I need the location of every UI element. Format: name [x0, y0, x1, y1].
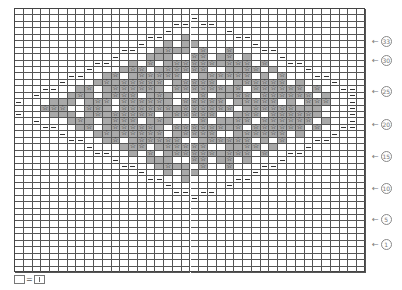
purl-dash-icon [280, 160, 285, 161]
arrow-left-icon: ← [372, 87, 379, 96]
chart-cell [68, 267, 77, 273]
purl-dash-icon [104, 63, 109, 64]
purl-dash-icon [262, 50, 267, 51]
purl-dash-icon [104, 153, 109, 154]
row-number: 20 [381, 119, 392, 130]
purl-dash-icon [350, 114, 355, 115]
chart-cell [76, 267, 85, 273]
chart-cell [112, 267, 121, 273]
chart-cell [164, 267, 173, 273]
chart-cell [269, 267, 278, 273]
purl-dash-icon [148, 179, 153, 180]
purl-dash-icon [183, 192, 188, 193]
row-label: ←25 [372, 86, 392, 97]
chart-cell [191, 267, 200, 273]
row-number: 10 [381, 183, 392, 194]
purl-dash-icon [209, 192, 214, 193]
purl-dash-icon [34, 95, 39, 96]
purl-dash-icon [332, 82, 337, 83]
chart-cell [331, 267, 340, 273]
purl-dash-icon [253, 44, 258, 45]
chart-cell [226, 267, 235, 273]
purl-dash-icon [271, 166, 276, 167]
arrow-left-icon: ← [372, 120, 379, 129]
purl-dash-icon [51, 127, 56, 128]
row-label: ←1 [372, 239, 392, 250]
purl-dash-icon [350, 127, 355, 128]
row-label: ←30 [372, 55, 392, 66]
chart-cell [120, 267, 129, 273]
purl-dash-icon [227, 31, 232, 32]
purl-dash-icon [95, 153, 100, 154]
purl-dash-icon [87, 147, 92, 148]
knit-symbol-icon [34, 275, 45, 284]
arrow-left-icon: ← [372, 152, 379, 161]
chart-cell [155, 267, 164, 273]
purl-dash-icon [16, 114, 21, 115]
row-number: 1 [381, 239, 392, 250]
chart-cell [313, 267, 322, 273]
chart-cell [322, 267, 331, 273]
chart-cell [94, 267, 103, 273]
purl-dash-icon [60, 134, 65, 135]
row-number: 15 [381, 151, 392, 162]
purl-dash-icon [271, 50, 276, 51]
purl-dash-icon [332, 134, 337, 135]
purl-dash-icon [341, 89, 346, 90]
chart-cell [208, 267, 217, 273]
purl-dash-icon [139, 44, 144, 45]
purl-dash-icon [166, 31, 171, 32]
chart-cell [85, 267, 94, 273]
purl-dash-icon [16, 102, 21, 103]
row-label: ←15 [372, 151, 392, 162]
chart-cell [252, 267, 261, 273]
purl-dash-icon [288, 63, 293, 64]
chart-cell [296, 267, 305, 273]
arrow-left-icon: ← [372, 240, 379, 249]
purl-dash-icon [288, 153, 293, 154]
chart-cell [261, 267, 270, 273]
purl-dash-icon [78, 140, 83, 141]
purl-dash-icon [174, 192, 179, 193]
arrow-left-icon: ← [372, 215, 379, 224]
purl-dash-icon [130, 50, 135, 51]
purl-dash-icon [201, 192, 206, 193]
chart-cell [41, 267, 50, 273]
purl-dash-icon [183, 24, 188, 25]
purl-dash-icon [157, 37, 162, 38]
purl-dash-icon [324, 140, 329, 141]
chart-cell [287, 267, 296, 273]
legend: = [14, 275, 45, 284]
row-label: ←10 [372, 183, 392, 194]
purl-dash-icon [60, 82, 65, 83]
purl-dash-icon [236, 179, 241, 180]
purl-dash-icon [236, 37, 241, 38]
purl-dash-icon [201, 24, 206, 25]
purl-dash-icon [78, 76, 83, 77]
purl-dash-icon [350, 89, 355, 90]
purl-dash-icon [306, 69, 311, 70]
chart-cell [217, 267, 226, 273]
purl-dash-icon [350, 108, 355, 109]
purl-dash-icon [113, 57, 118, 58]
purl-dash-icon [280, 57, 285, 58]
blank-square-icon [14, 275, 25, 284]
row-number: 30 [381, 55, 392, 66]
chart-cell [278, 267, 287, 273]
legend-equals: = [26, 275, 33, 284]
purl-dash-icon [69, 140, 74, 141]
row-number: 25 [381, 86, 392, 97]
purl-dash-icon [113, 160, 118, 161]
row-label: ←5 [372, 214, 392, 225]
purl-dash-icon [139, 172, 144, 173]
purl-dash-icon [69, 76, 74, 77]
purl-dash-icon [324, 76, 329, 77]
chart-cell [357, 267, 366, 273]
purl-dash-icon [34, 121, 39, 122]
purl-dash-icon [350, 102, 355, 103]
purl-dash-icon [122, 50, 127, 51]
chart-cell [234, 267, 243, 273]
chart-cell [138, 267, 147, 273]
chart-cell [173, 267, 182, 273]
row-label: ←33 [372, 36, 392, 47]
